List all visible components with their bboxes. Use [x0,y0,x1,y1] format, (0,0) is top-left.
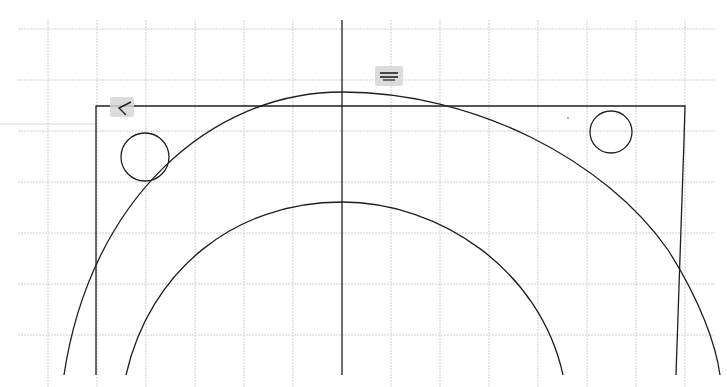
angle-snap-marker-icon[interactable] [110,97,134,117]
inner-arc[interactable] [126,202,563,375]
drawing-canvas[interactable] [0,0,727,387]
hole-left-circle[interactable] [121,133,169,181]
parallel-constraint-marker-icon[interactable] [375,66,403,86]
point-marker [567,117,569,119]
hole-right-circle[interactable] [590,111,632,153]
